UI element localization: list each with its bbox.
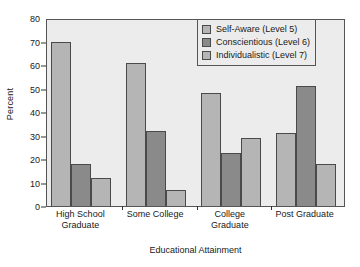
y-axis-tick-label: 70 (30, 38, 40, 48)
x-axis-tick-label: Some College (127, 209, 184, 220)
bar[interactable] (241, 138, 261, 206)
legend-swatch-icon (202, 38, 211, 47)
legend-item[interactable]: Self-Aware (Level 5) (202, 23, 310, 36)
bar[interactable] (166, 190, 186, 206)
y-axis-ticks: 01020304050607080 (18, 0, 46, 267)
y-axis-tick-label: 60 (30, 61, 40, 71)
x-axis-tick-label-line: Graduate (56, 220, 105, 231)
y-axis-tick-label: 80 (30, 14, 40, 24)
y-axis-tick-label: 50 (30, 85, 40, 95)
y-axis-title: Percent (2, 0, 18, 207)
bar[interactable] (146, 131, 166, 206)
legend-swatch-icon (202, 25, 211, 34)
bar[interactable] (201, 93, 221, 206)
bar[interactable] (221, 153, 241, 206)
bar[interactable] (51, 42, 71, 207)
legend-item-label: Conscientious (Level 6) (216, 38, 310, 47)
x-axis-tick-label-line: Some College (127, 209, 184, 220)
chart-legend: Self-Aware (Level 5)Conscientious (Level… (197, 19, 316, 66)
y-axis-tick-label: 0 (35, 202, 40, 212)
bar-group (51, 20, 111, 206)
x-axis-tick-label-line: College (211, 209, 249, 220)
x-axis-tick-label-line: Post Graduate (276, 209, 334, 220)
legend-item-label: Self-Aware (Level 5) (216, 25, 297, 34)
bar[interactable] (276, 133, 296, 206)
x-axis-tick-label-line: Graduate (211, 220, 249, 231)
bar[interactable] (126, 63, 146, 206)
x-axis-tick-labels: High SchoolGraduateSome CollegeCollegeGr… (46, 209, 345, 243)
bar-chart-figure: Percent 01020304050607080 Self-Aware (Le… (0, 0, 360, 267)
y-axis-tick-label: 40 (30, 108, 40, 118)
y-axis-tick-label: 10 (30, 179, 40, 189)
legend-item[interactable]: Individualistic (Level 7) (202, 49, 310, 62)
y-axis-tick-label: 30 (30, 132, 40, 142)
legend-item[interactable]: Conscientious (Level 6) (202, 36, 310, 49)
x-axis-tick-label: CollegeGraduate (211, 209, 249, 231)
y-axis-tick-label: 20 (30, 155, 40, 165)
x-axis-title: Educational Attainment (46, 245, 345, 255)
legend-swatch-icon (202, 51, 211, 60)
bar[interactable] (296, 86, 316, 206)
bar[interactable] (91, 178, 111, 206)
x-axis-tick-label-line: High School (56, 209, 105, 220)
x-axis-tick-label: High SchoolGraduate (56, 209, 105, 231)
bar-group (126, 20, 186, 206)
x-axis-tick-label: Post Graduate (276, 209, 334, 220)
bar[interactable] (71, 164, 91, 206)
bar[interactable] (316, 164, 336, 206)
legend-item-label: Individualistic (Level 7) (216, 51, 307, 60)
y-axis-title-text: Percent (5, 87, 15, 119)
